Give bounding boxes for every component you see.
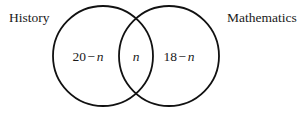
venn-diagram-figure: History Mathematics 20−n n 18−n bbox=[0, 0, 302, 114]
region-right-variable: n bbox=[188, 49, 195, 64]
region-left-variable: n bbox=[97, 49, 104, 64]
region-left-operator: − bbox=[86, 49, 97, 64]
region-right-operator: − bbox=[177, 49, 188, 64]
region-right-number: 18 bbox=[164, 49, 178, 64]
region-label-mathematics-only: 18−n bbox=[164, 50, 195, 64]
region-intersection-variable: n bbox=[133, 49, 140, 64]
region-label-intersection: n bbox=[133, 50, 140, 64]
set-label-mathematics: Mathematics bbox=[227, 11, 297, 25]
set-label-history: History bbox=[9, 11, 50, 25]
region-label-history-only: 20−n bbox=[73, 50, 104, 64]
region-left-number: 20 bbox=[73, 49, 87, 64]
